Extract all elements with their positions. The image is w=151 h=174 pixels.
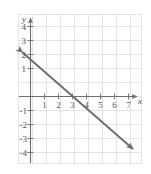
x-tick-label-3: 3 (70, 100, 75, 110)
x-tick-label-7: 7 (126, 100, 131, 110)
y-tick-label-minus-2: -2 (20, 120, 28, 130)
coordinate-plane-figure: 1 2 3 4 5 6 7 4 3 2 1 -1 -2 -3 -4 y x (0, 0, 151, 174)
x-axis-label: x (137, 96, 142, 106)
y-tick-label-3: 3 (22, 36, 27, 46)
x-tick-label-4: 4 (84, 100, 89, 110)
x-tick-label-1: 1 (42, 100, 47, 110)
y-tick-label-minus-4: -4 (20, 148, 28, 158)
y-axis-label: y (21, 14, 26, 24)
x-tick-label-2: 2 (56, 100, 61, 110)
y-tick-label-minus-3: -3 (20, 134, 28, 144)
graph-canvas: 1 2 3 4 5 6 7 4 3 2 1 -1 -2 -3 -4 y x (0, 0, 151, 174)
y-tick-label-2: 2 (22, 50, 27, 60)
x-tick-label-6: 6 (112, 100, 117, 110)
y-tick-label-minus-1: -1 (20, 106, 28, 116)
y-tick-label-1: 1 (22, 64, 27, 74)
x-tick-label-5: 5 (98, 100, 103, 110)
